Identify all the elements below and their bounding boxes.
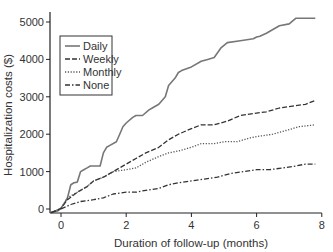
legend-label-daily: Daily: [83, 40, 108, 52]
y-tick-label: 3000: [20, 91, 44, 103]
x-tick-label: 0: [58, 219, 64, 231]
legend: DailyWeeklyMonthlyNone: [60, 36, 122, 95]
y-tick-label: 2000: [20, 128, 44, 140]
x-tick-label: 2: [123, 219, 129, 231]
y-tick-label: 4000: [20, 53, 44, 65]
y-axis-label: Hospitalization costs ($): [2, 54, 14, 176]
legend-label-monthly: Monthly: [83, 66, 122, 78]
x-tick-label: 4: [188, 219, 194, 231]
series-line-weekly: [51, 101, 315, 213]
x-axis-label: Duration of follow-up (months): [114, 237, 268, 249]
chart: 01000200030004000500002468 DailyWeeklyMo…: [0, 0, 333, 252]
x-tick-label: 8: [319, 219, 325, 231]
legend-label-weekly: Weekly: [83, 53, 119, 65]
x-tick-label: 6: [254, 219, 260, 231]
series-line-none: [51, 164, 315, 213]
y-tick-label: 0: [38, 203, 44, 215]
legend-label-none: None: [83, 79, 109, 91]
chart-canvas: 01000200030004000500002468 DailyWeeklyMo…: [0, 0, 333, 252]
series-line-monthly: [51, 125, 315, 213]
y-tick-label: 1000: [20, 166, 44, 178]
y-tick-label: 5000: [20, 16, 44, 28]
